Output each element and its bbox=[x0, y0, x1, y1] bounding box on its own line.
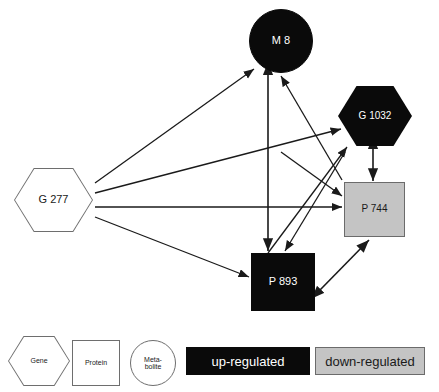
edge-g277-to-p893 bbox=[95, 217, 249, 277]
legend-metabolite: Meta- bolite bbox=[130, 340, 176, 386]
node-label: P 893 bbox=[269, 276, 298, 288]
edge-g277-to-g1032 bbox=[95, 129, 341, 193]
node-label: Protein bbox=[85, 359, 107, 366]
edge-p893-to-m8 bbox=[281, 76, 342, 180]
legend-up: up-regulated bbox=[186, 347, 310, 375]
edges-group bbox=[95, 69, 373, 290]
edge-g277-to-m8 bbox=[95, 69, 254, 183]
edge-g1032-to-p893 bbox=[285, 152, 345, 251]
legend-protein: Protein bbox=[72, 340, 120, 386]
node-g277[interactable]: G 277 bbox=[14, 168, 93, 232]
hexagon-fill bbox=[15, 169, 92, 231]
legend-up-label: up-regulated bbox=[212, 354, 285, 369]
legend-down: down-regulated bbox=[315, 347, 425, 375]
legend-down-label: down-regulated bbox=[325, 354, 415, 369]
edge-p893-to-g1032 bbox=[268, 147, 347, 253]
edge-m8-to-p744 bbox=[281, 152, 342, 196]
node-m8[interactable]: M 8 bbox=[249, 9, 313, 73]
node-p744[interactable]: P 744 bbox=[344, 182, 405, 237]
hexagon-fill bbox=[9, 337, 69, 385]
node-p893[interactable]: P 893 bbox=[251, 253, 315, 311]
legend-gene: Gene bbox=[8, 336, 70, 386]
node-label: M 8 bbox=[272, 35, 290, 47]
node-label: Meta- bolite bbox=[144, 356, 162, 371]
node-g1032[interactable]: G 1032 bbox=[338, 86, 412, 146]
node-label: P 744 bbox=[362, 204, 388, 215]
edge-p893-to-p744 bbox=[320, 240, 369, 290]
hexagon-fill bbox=[339, 87, 411, 145]
network-diagram-canvas: G 277M 8G 1032P 744P 893 GeneProteinMeta… bbox=[0, 0, 439, 392]
